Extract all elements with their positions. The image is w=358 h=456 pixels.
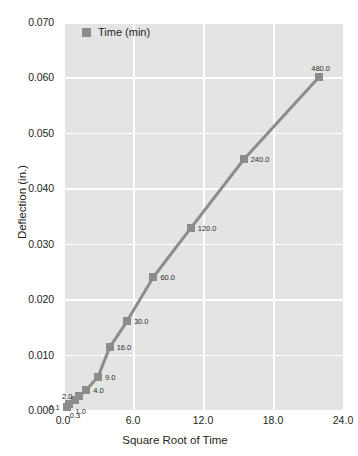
x-axis-tick-label: 18.0 <box>263 414 283 426</box>
x-axis-tick-label: 0.0 <box>56 414 71 426</box>
x-axis-title: Square Root of Time <box>0 434 350 446</box>
x-axis-tick-label: 6.0 <box>126 414 141 426</box>
x-axis-tick-label: 12.0 <box>193 414 213 426</box>
x-axis-tick-label: 24.0 <box>333 414 353 426</box>
y-axis-title: Deflection (in.) <box>16 92 28 312</box>
